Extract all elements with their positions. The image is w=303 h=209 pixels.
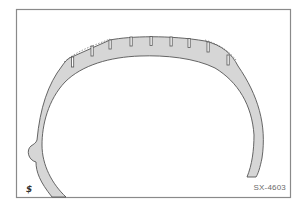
- tread-groove: [91, 46, 93, 56]
- tread-groove: [170, 37, 172, 46]
- tread-groove: [150, 37, 152, 46]
- corner-mark: $: [26, 184, 32, 194]
- tread-groove: [227, 55, 229, 65]
- tread-groove: [130, 37, 132, 46]
- tread-groove: [207, 42, 209, 52]
- tread-groove: [188, 39, 190, 48]
- figure-code-label: SX-4603: [253, 183, 286, 192]
- tread-groove: [72, 57, 74, 67]
- tire-diagram: [0, 0, 303, 209]
- tread-groove: [109, 40, 111, 49]
